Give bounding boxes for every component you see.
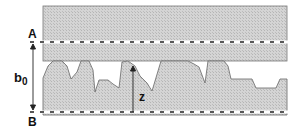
label-b0: b0 <box>14 70 28 87</box>
label-a: A <box>28 27 37 41</box>
rough-surface-profile <box>43 61 287 115</box>
b0-dimension-arrow <box>31 44 36 110</box>
label-b: B <box>28 115 37 129</box>
top-plate <box>43 6 287 61</box>
surface-diagram: A B b0 z <box>0 0 304 133</box>
label-z: z <box>139 90 145 104</box>
